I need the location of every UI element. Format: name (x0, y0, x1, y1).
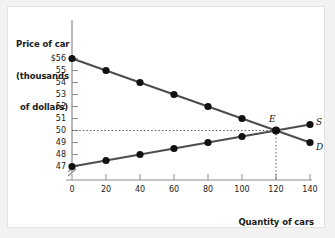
y-tick-marks (72, 59, 78, 167)
x-tick-label-0: 0 (61, 185, 83, 194)
x-tick-label-20: 20 (95, 185, 117, 194)
equilibrium-point (272, 127, 280, 135)
x-tick-label-40: 40 (129, 185, 151, 194)
y-tick-label-49: 49 (40, 138, 66, 147)
y-tick-label-56: $56 (40, 54, 66, 63)
y-tick-label-52: 52 (40, 102, 66, 111)
x-tick-label-60: 60 (163, 185, 185, 194)
y-tick-label-51: 51 (40, 114, 66, 123)
x-tick-label-80: 80 (197, 185, 219, 194)
supply-curve-label: S (316, 117, 322, 127)
equilibrium-label: E (269, 114, 276, 124)
demand-curve-label: D (316, 142, 323, 152)
y-tick-label-48: 48 (40, 150, 66, 159)
y-tick-label-50: 50 (40, 126, 66, 135)
y-tick-label-55: 55 (40, 66, 66, 75)
y-tick-label-54: 54 (40, 78, 66, 87)
x-tick-label-120: 120 (265, 185, 287, 194)
x-tick-label-100: 100 (231, 185, 253, 194)
y-tick-label-47: 47 (40, 162, 66, 171)
x-tick-marks (72, 174, 310, 180)
x-axis-title: Quantity of cars (thousands) (210, 196, 314, 238)
y-tick-label-53: 53 (40, 90, 66, 99)
x-tick-label-140: 140 (299, 185, 321, 194)
